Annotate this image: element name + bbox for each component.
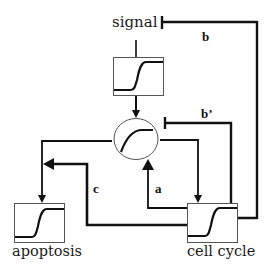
edge-c-activation [52,164,187,225]
apoptosis-label: apoptosis [12,243,82,259]
edge-integrator-to-cell-cycle [160,140,198,201]
signal-label: signal [112,13,158,31]
edge-integrator-to-apoptosis [42,141,112,201]
edge-label-b-prime: b’ [201,106,213,121]
edge-label-c: c [93,181,99,196]
edge-a-activation [148,168,187,208]
cell-cycle-label: cell cycle [187,243,255,259]
edge-label-a: a [155,181,162,196]
apoptosis-node-box [15,204,65,243]
edge-label-b: b [202,29,209,44]
arrowhead-icon [43,158,54,170]
cell-cycle-node-box [188,204,238,243]
integrator-node [114,119,158,160]
signal-node-box [114,58,164,96]
feedback-diagram: signal b b’ c a apoptosis [0,0,272,269]
arrowhead-icon [142,159,154,170]
